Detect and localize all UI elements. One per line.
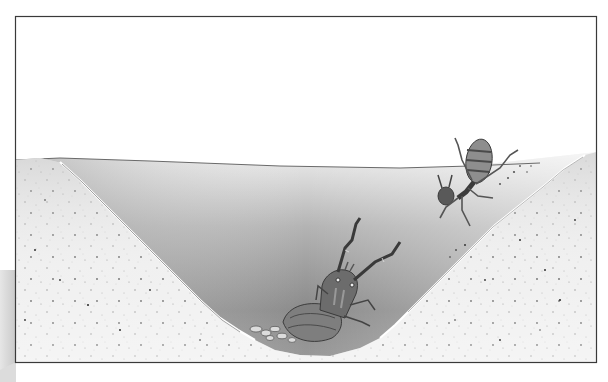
antlion-pit-illustration — [0, 0, 608, 382]
